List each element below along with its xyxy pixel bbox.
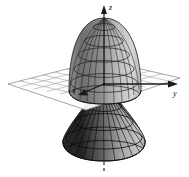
- plot-canvas: z y x: [0, 0, 189, 177]
- z-axis-label: z: [108, 3, 113, 12]
- x-axis-label: x: [71, 86, 76, 95]
- origin-point: [103, 83, 105, 85]
- y-axis-label: y: [172, 89, 177, 98]
- 3d-surface-plot: z y x: [0, 0, 189, 177]
